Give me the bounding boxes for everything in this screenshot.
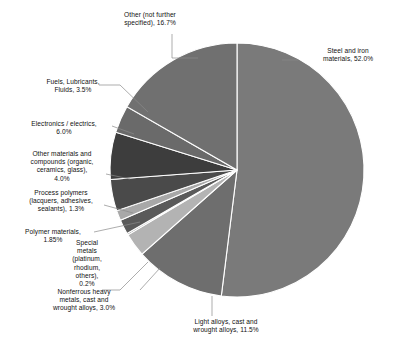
leader-line-nonferrous xyxy=(140,268,160,290)
slice-label-special-metals: Special metals (platinum, rhodium, other… xyxy=(58,239,116,288)
slice-label-other-materials-compounds: Other materials and compounds (organic, … xyxy=(4,150,120,183)
slice-label-process-polymers: Process polymers (lacquers, adhesives, s… xyxy=(2,189,120,214)
slice-label-fuels-lubricants-fluids: Fuels, Lubricants, Fluids, 3.5% xyxy=(18,78,128,94)
slice-label-electronics-electrics: Electronics / electrics, 6.0% xyxy=(8,120,120,136)
slice-label-steel-and-iron: Steel and iron materials, 52.0% xyxy=(300,47,396,63)
slice-label-other-not-further-specified: Other (not further specified), 16.7% xyxy=(98,11,202,27)
pie-slice-group xyxy=(110,43,364,297)
pie-slice-steel-and-iron xyxy=(221,43,364,297)
pie-chart-figure: Other (not further specified), 16.7% Ste… xyxy=(0,0,398,352)
slice-label-light-alloys: Light alloys, cast and wrought alloys, 1… xyxy=(166,318,286,334)
slice-label-nonferrous-heavy-metals: Nonferrous heavy metals, cast and wrough… xyxy=(28,288,140,313)
